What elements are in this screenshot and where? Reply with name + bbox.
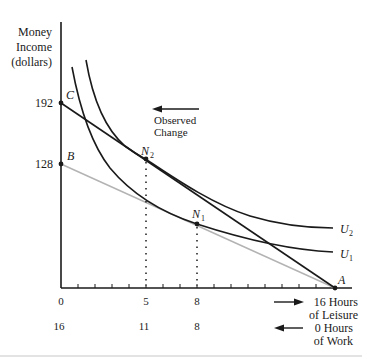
budget-line-ac xyxy=(61,103,335,288)
indifference-curve-u1 xyxy=(72,67,333,252)
label-a: A xyxy=(337,273,346,287)
observed-change-arrow-icon xyxy=(152,106,199,113)
label-n2: N 2 xyxy=(140,144,154,160)
label-n1: N 1 xyxy=(191,207,205,223)
label-u1: U 1 xyxy=(340,247,353,263)
point-n1 xyxy=(195,222,200,227)
labor-leisure-diagram: Money Income (dollars) 192 128 C xyxy=(0,0,374,364)
svg-text:N: N xyxy=(140,144,150,158)
y-tick-128: 128 xyxy=(35,157,53,171)
svg-text:2: 2 xyxy=(150,151,154,160)
svg-text:1: 1 xyxy=(349,254,353,263)
svg-text:1: 1 xyxy=(201,214,205,223)
work-caption-line2: of Work xyxy=(314,334,353,348)
observed-change-line1: Observed xyxy=(154,114,197,126)
y-tick-192: 192 xyxy=(35,96,53,110)
x-work-16: 16 xyxy=(54,320,66,332)
x-leisure-8: 8 xyxy=(194,295,200,307)
svg-text:2: 2 xyxy=(349,229,353,238)
point-b xyxy=(59,162,64,167)
label-u2: U 2 xyxy=(340,222,353,238)
y-axis-label-line2: Income xyxy=(16,40,52,54)
arrow-right-icon xyxy=(274,299,304,306)
observed-change-line2: Change xyxy=(154,126,188,138)
y-axis-label-line3: (dollars) xyxy=(11,55,52,69)
point-a xyxy=(333,286,338,291)
x-work-8: 8 xyxy=(194,320,200,332)
x-leisure-5: 5 xyxy=(143,295,149,307)
label-c: C xyxy=(66,88,75,102)
leisure-caption-line1: 16 Hours xyxy=(314,295,359,309)
svg-text:N: N xyxy=(191,207,201,221)
leisure-caption-line2: of Leisure xyxy=(309,308,358,322)
work-caption-line1: 0 Hours xyxy=(315,321,354,335)
point-c xyxy=(59,101,64,106)
arrow-left-icon xyxy=(274,325,303,332)
x-work-11: 11 xyxy=(139,320,150,332)
y-axis-label-line1: Money xyxy=(18,25,52,39)
x-leisure-0: 0 xyxy=(58,295,64,307)
label-b: B xyxy=(67,149,75,163)
